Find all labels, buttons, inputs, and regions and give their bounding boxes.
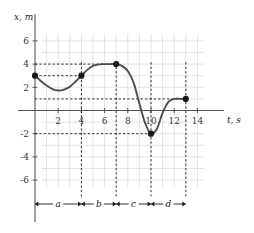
- x-tick-labels: 2468101214: [55, 116, 203, 126]
- interval-label-b: b: [96, 199, 102, 209]
- interval-label-a: a: [56, 199, 61, 209]
- y-tick-label: 6: [23, 36, 29, 46]
- interval-label-d: d: [166, 199, 172, 209]
- x-tick-label: 12: [168, 116, 179, 126]
- graph-figure: 2468101214 642-2-4-6 x, m t, s abcd: [0, 0, 254, 233]
- x-tick-label: 8: [125, 116, 131, 126]
- x-tick-label: 14: [192, 116, 204, 126]
- y-tick-label: -2: [20, 129, 29, 139]
- y-tick-label: 2: [23, 83, 29, 93]
- y-tick-label: -4: [20, 152, 29, 162]
- y-tick-label: -6: [20, 175, 29, 185]
- x-tick-label: 10: [145, 116, 157, 126]
- interval-label-c: c: [131, 199, 136, 209]
- guide-lines: [35, 62, 186, 196]
- x-tick-label: 6: [102, 116, 108, 126]
- position-time-graph: 2468101214 642-2-4-6 x, m t, s abcd: [0, 0, 254, 233]
- y-axis-label: x, m: [14, 12, 33, 22]
- x-tick-label: 2: [55, 116, 61, 126]
- x-axis-label: t, s: [227, 115, 241, 125]
- y-tick-label: 4: [23, 59, 29, 69]
- x-tick-label: 4: [79, 116, 85, 126]
